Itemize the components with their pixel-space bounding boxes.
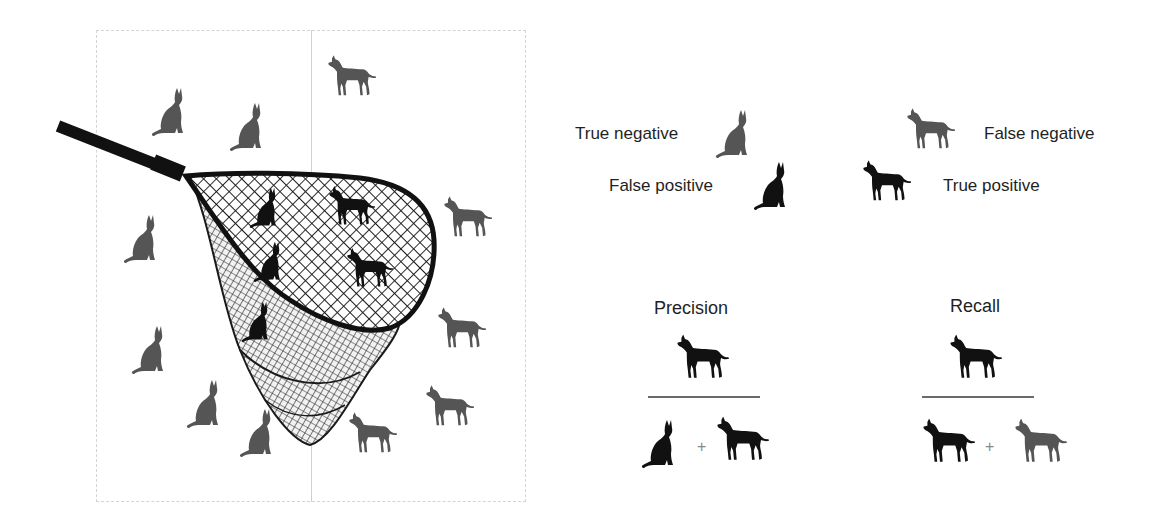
recall-title: Recall	[950, 296, 1000, 317]
black-cat-icon	[752, 160, 792, 210]
grey-cat-icon	[714, 108, 754, 158]
black-dog-icon	[346, 248, 394, 288]
black-cat-icon	[248, 186, 282, 228]
grey-cat-icon	[122, 213, 162, 263]
grey-dog-icon	[906, 106, 956, 152]
legend-true-negative-label: True negative	[575, 124, 678, 144]
grey-dog-icon	[437, 307, 487, 349]
grey-dog-icon	[348, 412, 398, 454]
precision-plus-sign: +	[697, 438, 706, 456]
black-cat-icon	[640, 418, 680, 468]
black-dog-icon	[922, 416, 976, 466]
black-cat-icon	[240, 300, 274, 342]
legend-true-positive-label: True positive	[943, 176, 1040, 196]
grey-cat-icon	[130, 324, 170, 374]
precision-fraction-line	[648, 396, 760, 398]
black-cat-icon	[252, 240, 286, 282]
legend-false-negative-label: False negative	[984, 124, 1095, 144]
grey-cat-icon	[228, 101, 268, 151]
fishing-net-illustration	[0, 0, 1172, 529]
grey-cat-icon	[185, 378, 225, 428]
black-dog-icon	[716, 414, 770, 464]
black-dog-icon	[949, 334, 1003, 380]
grey-cat-icon	[150, 86, 190, 136]
black-dog-icon	[328, 186, 376, 226]
grey-dog-icon	[327, 55, 377, 97]
grey-cat-icon	[238, 407, 278, 457]
black-dog-icon	[862, 158, 912, 204]
legend-false-positive-label: False positive	[609, 176, 713, 196]
grey-dog-icon	[1014, 416, 1068, 466]
grey-dog-icon	[443, 196, 493, 238]
recall-plus-sign: +	[985, 438, 994, 456]
black-dog-icon	[676, 334, 730, 380]
grey-dog-icon	[425, 385, 475, 427]
recall-fraction-line	[922, 396, 1034, 398]
precision-title: Precision	[654, 298, 728, 319]
